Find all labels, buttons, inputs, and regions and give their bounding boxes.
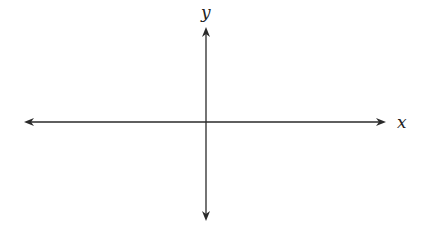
x-axis <box>24 118 386 126</box>
x-axis-label: x <box>397 112 407 132</box>
y-axis <box>202 27 210 221</box>
y-axis-label: y <box>200 2 211 22</box>
coordinate-plane: x y <box>0 0 423 230</box>
